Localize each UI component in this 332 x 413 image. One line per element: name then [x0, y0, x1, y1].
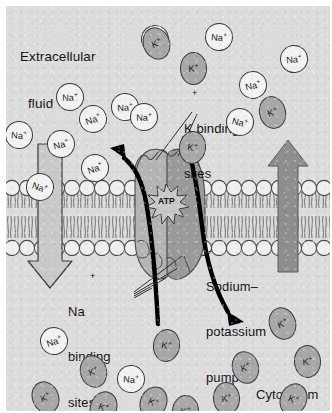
- ion-sodium: Na+: [56, 83, 84, 111]
- na-binding-charge-sup: +: [90, 271, 95, 281]
- atp-label: ATP: [158, 197, 175, 207]
- ion-sodium: Na+: [130, 103, 158, 131]
- ion-potassium: K+: [293, 344, 322, 378]
- figure-root: Extracellular fluid K binding sites + Na…: [0, 0, 332, 413]
- diagram-panel: Extracellular fluid K binding sites + Na…: [6, 6, 330, 411]
- ion-potassium: K+: [179, 51, 206, 84]
- k-binding-charge-sup: +: [192, 88, 197, 98]
